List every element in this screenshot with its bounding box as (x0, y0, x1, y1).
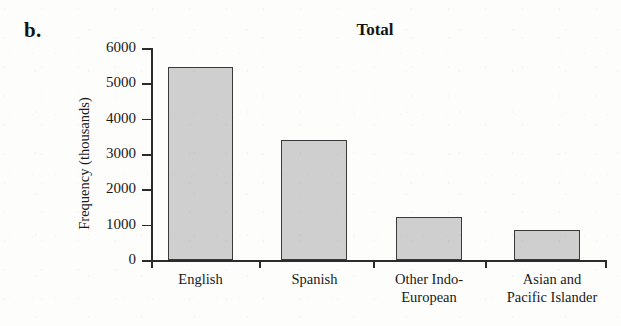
bar-english (168, 67, 233, 260)
x-axis-label-asian-and-pacific-islander: Asian and Pacific Islander (487, 270, 617, 306)
panel-letter: b. (24, 18, 42, 43)
x-axis-label-other-indo-european-line2: European (369, 288, 489, 306)
bar-spanish (281, 140, 347, 260)
bar-asian-and-pacific-islander (514, 230, 580, 260)
y-axis-tick-0: 0 (142, 260, 151, 262)
x-axis-label-asian-and-pacific-islander-line2: Pacific Islander (487, 288, 617, 306)
x-axis-label-english: English (143, 270, 258, 288)
x-axis-label-english-line1: English (143, 270, 258, 288)
x-axis-tick-0 (151, 260, 153, 268)
x-axis-tick-3 (485, 260, 487, 268)
chart-title: Total (290, 20, 460, 40)
y-axis-tick-label-1000: 1000 (80, 214, 136, 234)
x-axis-tick-2 (373, 260, 375, 268)
x-axis-label-other-indo-european: Other Indo- European (369, 270, 489, 306)
x-axis-line (151, 260, 607, 262)
y-axis-tick-label-6000: 6000 (80, 37, 136, 57)
y-axis-tick-label-2000: 2000 (80, 178, 136, 198)
y-axis-line (151, 48, 153, 260)
y-axis-tick-5000: 5000 (142, 83, 151, 85)
y-axis-tick-3000: 3000 (142, 154, 151, 156)
x-axis-tick-1 (259, 260, 261, 268)
y-axis-tick-1000: 1000 (142, 225, 151, 227)
x-axis-tick-4 (605, 260, 607, 268)
y-axis-tick-label-0: 0 (80, 249, 136, 269)
figure-container: b. Total Frequency (thousands) 6000 5000… (0, 0, 621, 326)
x-axis-label-other-indo-european-line1: Other Indo- (369, 270, 489, 288)
y-axis-tick-4000: 4000 (142, 119, 151, 121)
bar-other-indo-european (396, 217, 462, 261)
y-axis-tick-label-4000: 4000 (80, 108, 136, 128)
x-axis-label-asian-and-pacific-islander-line1: Asian and (487, 270, 617, 288)
x-axis-label-spanish: Spanish (257, 270, 372, 288)
plot-area: 6000 5000 4000 3000 2000 1000 0 (151, 48, 607, 260)
y-axis-tick-label-5000: 5000 (80, 72, 136, 92)
y-axis-tick-6000: 6000 (142, 48, 151, 50)
x-axis-label-spanish-line1: Spanish (257, 270, 372, 288)
y-axis-tick-2000: 2000 (142, 189, 151, 191)
y-axis-tick-label-3000: 3000 (80, 143, 136, 163)
